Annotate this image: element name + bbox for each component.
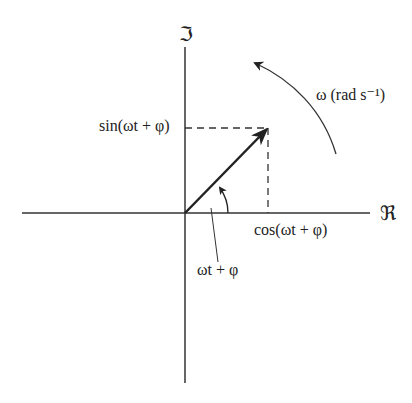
real-axis-label: ℜ bbox=[380, 203, 396, 223]
sin-label: sin(ωt + φ) bbox=[99, 118, 170, 134]
rotation-arrow bbox=[255, 63, 336, 154]
phasor-diagram bbox=[0, 0, 412, 403]
angle-leader-line bbox=[211, 208, 218, 262]
angle-label: ωt + φ bbox=[197, 262, 238, 278]
angle-arc bbox=[220, 188, 228, 213]
imaginary-axis-label: ℑ bbox=[179, 24, 193, 44]
cos-label: cos(ωt + φ) bbox=[254, 222, 327, 238]
rotation-label: ω (rad s⁻¹) bbox=[316, 87, 385, 103]
